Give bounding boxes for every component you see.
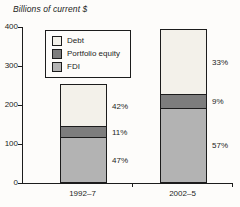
y-tick-label: 100 (0, 139, 18, 149)
legend-swatch-portfolio-equity (52, 49, 62, 59)
legend-label-portfolio-equity: Portfolio equity (67, 49, 120, 59)
legend-item-portfolio-equity: Portfolio equity (52, 49, 120, 59)
percent-label-fdi-2002-5: 57% (212, 141, 228, 151)
category-label-2002-5: 2002–5 (153, 189, 213, 199)
legend-label-fdi: FDI (67, 62, 80, 72)
x-tick-mark (132, 183, 133, 187)
y-tick-mark (18, 105, 22, 106)
stacked-bar-chart-figure: Billions of current $ 47%11%42%57%9%33% … (0, 0, 240, 207)
legend: DebtPortfolio equityFDI (45, 30, 131, 78)
bar-segment-portfolio-equity (161, 94, 206, 108)
bar-segment-portfolio-equity (61, 126, 106, 137)
y-tick-label: 0 (0, 178, 18, 188)
percent-label-portfolio-equity-1992-7: 11% (112, 128, 127, 138)
category-label-1992-7: 1992–7 (53, 189, 113, 199)
y-tick-mark (18, 183, 22, 184)
y-tick-mark (18, 27, 22, 28)
legend-item-fdi: FDI (52, 62, 120, 72)
bar-segment-fdi (161, 108, 206, 182)
chart-title: Billions of current $ (13, 4, 87, 14)
y-tick-label: 300 (0, 61, 18, 71)
y-tick-mark (18, 144, 22, 145)
bar-segment-debt (61, 85, 106, 126)
bar-segment-debt (161, 30, 206, 94)
percent-label-debt-1992-7: 42% (112, 102, 128, 112)
y-tick-mark (18, 66, 22, 67)
percent-label-debt-2002-5: 33% (212, 58, 228, 68)
y-axis-line (22, 27, 23, 183)
bar-segment-fdi (61, 137, 106, 182)
bar-2002-5 (160, 29, 207, 183)
y-tick-label: 200 (0, 100, 18, 110)
legend-swatch-fdi (52, 62, 62, 72)
legend-label-debt: Debt (67, 36, 84, 46)
legend-item-debt: Debt (52, 36, 120, 46)
bar-1992-7 (60, 84, 107, 183)
x-axis-line (22, 183, 232, 184)
x-tick-mark (232, 183, 233, 187)
y-tick-label: 400 (0, 22, 18, 32)
legend-swatch-debt (52, 36, 62, 46)
percent-label-portfolio-equity-2002-5: 9% (212, 97, 224, 107)
percent-label-fdi-1992-7: 47% (112, 156, 128, 166)
